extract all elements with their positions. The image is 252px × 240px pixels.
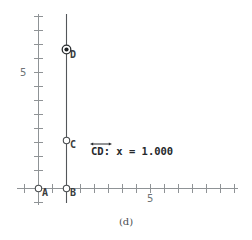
line-notation-cd: CD bbox=[91, 145, 104, 157]
y-axis-tick-label-5: 5 bbox=[20, 67, 26, 78]
line-measurement-text: : x = 1.000 bbox=[104, 145, 174, 157]
line-name-text: CD bbox=[91, 145, 104, 157]
point-label-a: A bbox=[42, 188, 48, 198]
coordinate-plane[interactable] bbox=[0, 0, 252, 240]
x-axis bbox=[17, 184, 238, 193]
y-axis bbox=[34, 14, 43, 205]
point-a[interactable] bbox=[35, 185, 41, 191]
point-label-b: B bbox=[70, 188, 76, 198]
geometry-figure-panel: 5 5 A B C D CD : x = 1.000 (d) bbox=[0, 0, 252, 240]
point-label-d: D bbox=[70, 50, 76, 60]
point-label-c: C bbox=[70, 140, 76, 150]
point-c-marker[interactable] bbox=[63, 137, 69, 143]
x-axis-tick-label-5: 5 bbox=[147, 193, 153, 204]
point-c[interactable] bbox=[63, 137, 69, 143]
line-cd-measurement-label[interactable]: CD : x = 1.000 bbox=[91, 145, 173, 157]
point-b[interactable] bbox=[63, 185, 69, 191]
double-arrow-icon bbox=[90, 142, 112, 146]
point-d-marker[interactable] bbox=[64, 47, 68, 51]
figure-caption: (d) bbox=[0, 216, 252, 227]
point-b-marker[interactable] bbox=[63, 185, 69, 191]
point-a-marker[interactable] bbox=[35, 185, 41, 191]
